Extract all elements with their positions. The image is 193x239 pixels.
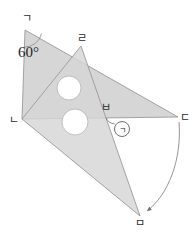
vertex-label-m: ㅁ bbox=[135, 217, 145, 229]
vertex-label-n: ㄴ bbox=[9, 114, 19, 126]
geometry-canvas: ㄱ ㄴ ㄷ ㄹ ㅁ ㅂ 60° ㄱ bbox=[0, 0, 193, 239]
geometry-figure: ㄱ ㄴ ㄷ ㄹ ㅁ ㅂ 60° ㄱ bbox=[0, 0, 193, 239]
angle-label-60: 60° bbox=[18, 44, 39, 60]
vertex-label-g: ㄱ bbox=[22, 12, 32, 24]
rotation-arc bbox=[147, 122, 179, 211]
vertex-label-d: ㄷ bbox=[180, 111, 190, 123]
angle-label-circled: ㄱ bbox=[119, 126, 126, 135]
vertex-label-b: ㅂ bbox=[101, 101, 111, 113]
vertex-label-r: ㄹ bbox=[77, 32, 87, 44]
